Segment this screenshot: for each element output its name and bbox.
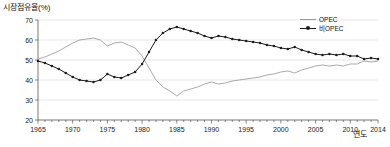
data-point: [287, 48, 290, 51]
legend-label-opec: OPEC: [319, 15, 337, 24]
data-point: [238, 39, 241, 42]
legend-label-non-opec: 비OPEC: [319, 24, 343, 33]
data-point: [120, 77, 123, 80]
data-point: [266, 44, 269, 47]
data-point: [245, 40, 248, 43]
data-point: [127, 74, 130, 77]
data-point: [162, 32, 165, 35]
tick-marks: [35, 20, 378, 124]
data-point: [85, 80, 88, 83]
data-point: [141, 63, 144, 66]
data-point: [370, 57, 373, 60]
data-point: [293, 46, 296, 49]
data-point: [58, 68, 61, 71]
data-point: [44, 62, 47, 65]
y-tick-label: 50: [25, 57, 33, 64]
data-point: [307, 51, 310, 54]
series-opec: [38, 38, 378, 96]
x-tick-label: 2000: [273, 126, 289, 133]
data-point: [342, 53, 345, 56]
data-point: [300, 49, 303, 52]
data-point: [196, 32, 199, 35]
x-tick-label: 1990: [204, 126, 220, 133]
data-point: [78, 79, 81, 82]
y-tick-labels: 203040506070: [25, 17, 33, 124]
axis-lines: [38, 20, 378, 120]
x-tick-label: 1965: [30, 126, 46, 133]
x-tick-label: 1985: [169, 126, 185, 133]
data-point: [314, 53, 317, 56]
data-point: [155, 39, 158, 42]
legend-line-icon-opec: [300, 15, 316, 24]
data-point: [51, 65, 54, 68]
legend: OPEC 비OPEC: [300, 15, 343, 33]
data-point: [252, 41, 255, 44]
data-point: [321, 54, 324, 57]
data-point: [92, 81, 95, 84]
data-point: [113, 76, 116, 79]
data-point: [134, 71, 137, 74]
data-point: [335, 54, 338, 57]
data-point: [65, 72, 68, 75]
data-point: [259, 42, 262, 45]
x-tick-label: 2014: [370, 126, 386, 133]
data-point: [176, 26, 179, 29]
data-point: [203, 35, 206, 38]
data-point: [169, 28, 172, 31]
data-point: [356, 55, 359, 58]
y-tick-label: 40: [25, 77, 33, 84]
data-point: [210, 37, 213, 40]
data-point: [148, 51, 151, 54]
legend-line-marker-icon-non-opec: [300, 24, 316, 33]
series-non-opec: [37, 26, 380, 84]
x-tick-label: 1995: [238, 126, 254, 133]
x-tick-label: 1975: [100, 126, 116, 133]
x-tick-label: 1970: [65, 126, 81, 133]
data-point: [99, 79, 102, 82]
legend-item-opec: OPEC: [300, 15, 343, 24]
data-point: [217, 35, 220, 38]
market-share-line-chart: 시장점유율(%) 연도 203040506070 196519701975198…: [0, 0, 390, 147]
y-tick-label: 20: [25, 117, 33, 124]
data-point: [106, 73, 109, 76]
y-tick-label: 60: [25, 37, 33, 44]
legend-item-non-opec: 비OPEC: [300, 24, 343, 33]
data-point: [363, 58, 366, 61]
data-point: [349, 55, 352, 58]
data-point: [189, 30, 192, 33]
data-point: [231, 38, 234, 41]
y-tick-label: 70: [25, 17, 33, 24]
data-point: [328, 53, 331, 56]
data-point: [182, 28, 185, 31]
data-point: [273, 45, 276, 48]
x-tick-label: 2005: [308, 126, 324, 133]
x-tick-label: 2010: [342, 126, 358, 133]
x-tick-labels: 1965197019751980198519901995200020052010…: [30, 126, 386, 133]
series-layer: [37, 26, 380, 96]
x-tick-label: 1980: [134, 126, 150, 133]
data-point: [224, 36, 227, 39]
y-tick-label: 30: [25, 97, 33, 104]
data-point: [280, 47, 283, 50]
data-point: [377, 58, 380, 61]
data-point: [71, 76, 74, 79]
data-point: [37, 60, 40, 63]
